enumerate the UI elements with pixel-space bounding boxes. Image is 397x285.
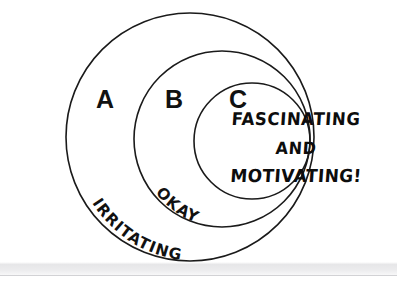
scan-artifact-rule xyxy=(0,275,397,276)
tier-letter-c: C xyxy=(229,85,247,113)
tier-letter-a: A xyxy=(96,85,114,113)
tier-letter-b: B xyxy=(165,85,183,113)
curved-label-okay: OKAY xyxy=(152,183,202,226)
diagram-canvas: A B C IRRITATING OKAY FASCINATING AND MO… xyxy=(0,0,397,285)
ring-inner-c xyxy=(194,83,310,199)
scan-artifact-band xyxy=(0,262,397,276)
concentric-circles-diagram: A B C IRRITATING OKAY xyxy=(0,0,397,285)
